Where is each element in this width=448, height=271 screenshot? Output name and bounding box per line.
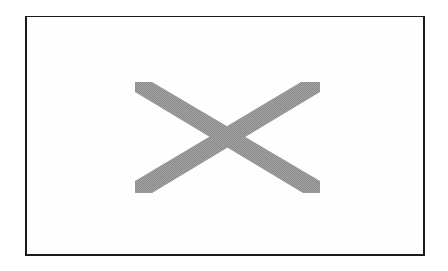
- cross-icon: [0, 0, 448, 271]
